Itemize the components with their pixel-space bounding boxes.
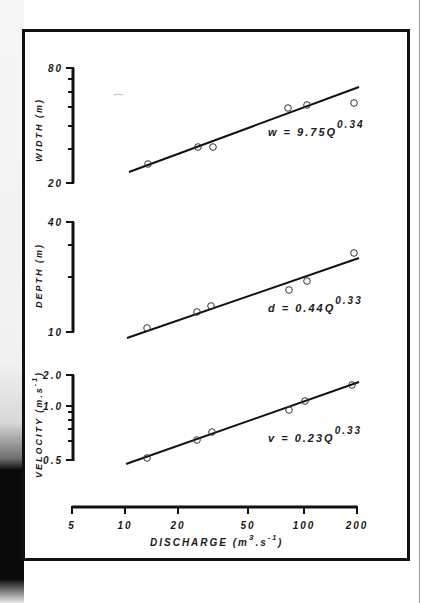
x-tick-200: 200 xyxy=(345,520,369,531)
depth-equation: d = 0.44Q0.33 xyxy=(268,295,363,314)
velocity-y-tick-0.5: 0.5 xyxy=(43,455,63,466)
x-tick-50: 50 xyxy=(240,520,255,531)
depth-panel: 40 10 DEPTH (m) d = 0.44Q0.33 xyxy=(34,217,363,338)
velocity-y-label: VELOCITY (m.s-1) xyxy=(31,371,44,478)
velocity-fit-line xyxy=(126,382,359,464)
depth-y-tick-10: 10 xyxy=(48,327,63,338)
x-tick-10: 10 xyxy=(117,520,132,531)
width-y-tick-20: 20 xyxy=(47,178,63,189)
width-panel: 80 20 WIDTH (m) w = 9.75Q0.34 xyxy=(34,63,365,189)
velocity-panel: 2.0 1.0 0.5 VELOCITY (m.s-1) v = 0.23Q0.… xyxy=(31,370,362,478)
x-axis: 5 10 20 50 100 200 DISCHARGE (m3.s-1) xyxy=(68,506,368,548)
hydraulic-geometry-chart: 80 20 WIDTH (m) w = 9.75Q0.34 40 10 DEPT… xyxy=(0,0,429,603)
x-axis-label: DISCHARGE (m3.s-1) xyxy=(150,533,283,548)
velocity-y-tick-2.0: 2.0 xyxy=(42,370,63,381)
width-equation: w = 9.75Q0.34 xyxy=(268,119,365,138)
x-tick-20: 20 xyxy=(169,520,185,531)
depth-y-label: DEPTH (m) xyxy=(34,243,44,308)
x-tick-5: 5 xyxy=(68,520,76,531)
depth-y-tick-40: 40 xyxy=(47,217,63,228)
x-tick-100: 100 xyxy=(293,520,316,531)
depth-data-points xyxy=(144,250,358,332)
width-y-tick-80: 80 xyxy=(48,63,63,74)
width-y-label: WIDTH (m) xyxy=(34,98,44,162)
scan-smudge xyxy=(114,94,123,95)
velocity-equation: v = 0.23Q0.33 xyxy=(268,425,362,444)
depth-fit-line xyxy=(127,258,359,338)
velocity-y-tick-1.0: 1.0 xyxy=(43,401,63,412)
